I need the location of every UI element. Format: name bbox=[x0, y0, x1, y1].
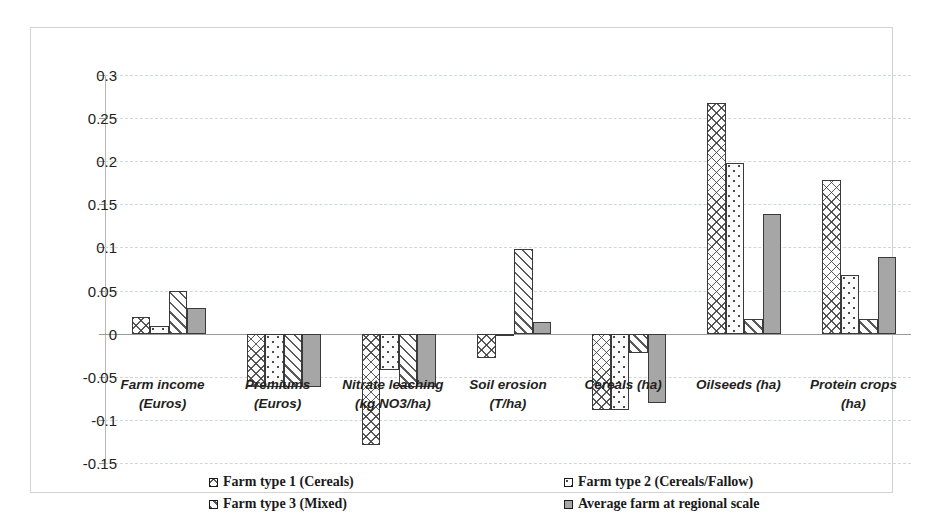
legend-swatch-icon bbox=[564, 500, 573, 509]
bar-group bbox=[707, 75, 781, 463]
bar[interactable] bbox=[169, 291, 188, 334]
y-tick-label: -0.1 bbox=[53, 411, 117, 428]
y-tick-label: 0.2 bbox=[53, 153, 117, 170]
y-tick-label: 0.05 bbox=[53, 282, 117, 299]
bar[interactable] bbox=[878, 257, 897, 334]
category-label: Nitrate leaching(kg NO3/ha) bbox=[335, 375, 450, 413]
category-label: Farm income(Euros) bbox=[105, 375, 220, 413]
y-tick-label: 0.1 bbox=[53, 239, 117, 256]
bar[interactable] bbox=[380, 334, 399, 370]
bar[interactable] bbox=[707, 103, 726, 333]
category-label-line: Farm income bbox=[105, 375, 220, 394]
bar[interactable] bbox=[187, 308, 206, 334]
legend-item[interactable]: Farm type 2 (Cereals/Fallow) bbox=[500, 474, 895, 490]
chart-legend: Farm type 1 (Cereals)Farm type 2 (Cereal… bbox=[105, 471, 895, 515]
legend-swatch-icon bbox=[564, 478, 573, 487]
category-label-line: (ha) bbox=[796, 394, 911, 413]
legend-item[interactable]: Farm type 1 (Cereals) bbox=[105, 474, 500, 490]
y-tick-label: -0.15 bbox=[53, 455, 117, 472]
category-label-line: (Euros) bbox=[105, 394, 220, 413]
bar[interactable] bbox=[496, 334, 515, 336]
category-label-line: (kg NO3/ha) bbox=[335, 394, 450, 413]
bar[interactable] bbox=[533, 322, 552, 333]
category-label-line: Soil erosion bbox=[450, 375, 565, 394]
y-tick-label: 0.15 bbox=[53, 196, 117, 213]
legend-item[interactable]: Farm type 3 (Mixed) bbox=[105, 496, 500, 512]
bar[interactable] bbox=[822, 180, 841, 333]
bar[interactable] bbox=[477, 334, 496, 358]
bar[interactable] bbox=[592, 334, 611, 410]
bar[interactable] bbox=[841, 275, 860, 334]
category-label-line: Oilseeds (ha) bbox=[681, 375, 796, 394]
bar[interactable] bbox=[514, 249, 533, 333]
legend-label: Farm type 1 (Cereals) bbox=[223, 474, 354, 490]
legend-label: Farm type 2 (Cereals/Fallow) bbox=[578, 474, 753, 490]
bar[interactable] bbox=[763, 214, 782, 334]
chart-frame: 0.30.250.20.150.10.050-0.05-0.1-0.15 Far… bbox=[30, 27, 893, 493]
bar[interactable] bbox=[726, 163, 745, 334]
bar[interactable] bbox=[132, 317, 151, 333]
category-label: Premiums(Euros) bbox=[220, 375, 335, 413]
legend-item[interactable]: Average farm at regional scale bbox=[500, 496, 895, 512]
category-label-line: Protein crops bbox=[796, 375, 911, 394]
bar[interactable] bbox=[629, 334, 648, 353]
legend-label: Average farm at regional scale bbox=[578, 496, 759, 512]
gridline--0.15 bbox=[105, 463, 911, 464]
bar[interactable] bbox=[744, 319, 763, 334]
category-label-line: Nitrate leaching bbox=[335, 375, 450, 394]
category-label-line: (T/ha) bbox=[450, 394, 565, 413]
legend-label: Farm type 3 (Mixed) bbox=[223, 496, 347, 512]
bar[interactable] bbox=[859, 319, 878, 334]
category-label: Oilseeds (ha) bbox=[681, 375, 796, 394]
category-label: Soil erosion(T/ha) bbox=[450, 375, 565, 413]
category-label: Cereals (ha) bbox=[566, 375, 681, 394]
bar[interactable] bbox=[150, 326, 169, 334]
plot-area: 0.30.250.20.150.10.050-0.05-0.1-0.15 Far… bbox=[105, 75, 911, 463]
category-label: Protein crops(ha) bbox=[796, 375, 911, 413]
legend-swatch-icon bbox=[209, 478, 218, 487]
category-label-line: Cereals (ha) bbox=[566, 375, 681, 394]
y-tick-label: 0.25 bbox=[53, 110, 117, 127]
legend-swatch-icon bbox=[209, 500, 218, 509]
category-label-line: Premiums bbox=[220, 375, 335, 394]
bar[interactable] bbox=[611, 334, 630, 410]
category-label-line: (Euros) bbox=[220, 394, 335, 413]
y-tick-label: 0 bbox=[53, 325, 117, 342]
y-tick-label: 0.3 bbox=[53, 67, 117, 84]
bar-group bbox=[592, 75, 666, 463]
